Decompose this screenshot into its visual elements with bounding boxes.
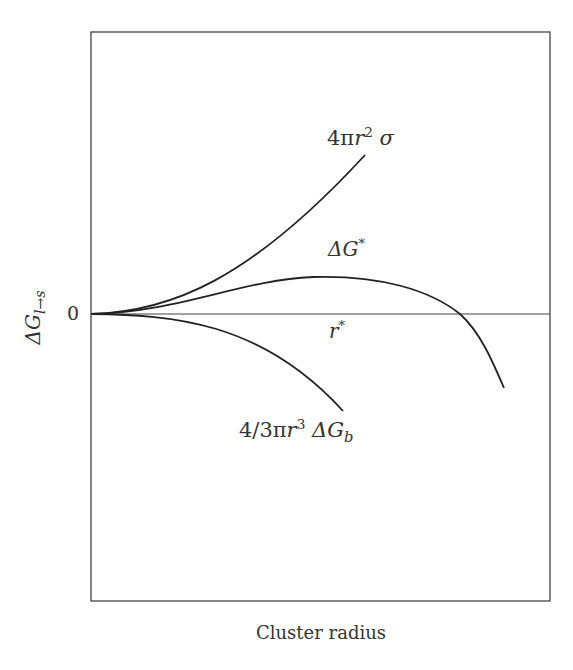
- surface-prefix: 4π: [327, 126, 354, 150]
- x-axis-label: Cluster radius: [256, 622, 386, 643]
- delta-g-star-label: ΔG*: [328, 236, 365, 261]
- bulk-exp: 3: [297, 416, 306, 432]
- y-axis-sym: ΔG: [21, 314, 45, 344]
- bulk-sym: ΔG: [312, 418, 344, 442]
- surface-sym: σ: [380, 126, 394, 150]
- nucleation-free-energy-diagram: [0, 0, 573, 670]
- critical-var: r: [329, 319, 339, 343]
- surface-exp: 2: [364, 124, 373, 140]
- bulk-term-label: 4/3πr3 ΔGb: [239, 416, 353, 445]
- bulk-sub: b: [344, 428, 353, 445]
- zero-tick-label: 0: [67, 302, 79, 324]
- total-sup: *: [358, 236, 365, 251]
- bulk-energy-curve: [91, 314, 343, 411]
- plot-frame: [91, 32, 550, 601]
- surface-var: r: [354, 126, 364, 150]
- total-sym: ΔG: [328, 237, 358, 261]
- surface-term-label: 4πr2 σ: [327, 124, 394, 150]
- y-axis-label: ΔGl→s: [21, 278, 48, 358]
- total-free-energy-curve: [91, 277, 504, 388]
- critical-sup: *: [339, 318, 346, 333]
- bulk-var: r: [287, 418, 297, 442]
- bulk-prefix: 4/3π: [239, 418, 287, 442]
- y-axis-sub: l→s: [32, 291, 48, 314]
- critical-radius-label: r*: [329, 318, 345, 343]
